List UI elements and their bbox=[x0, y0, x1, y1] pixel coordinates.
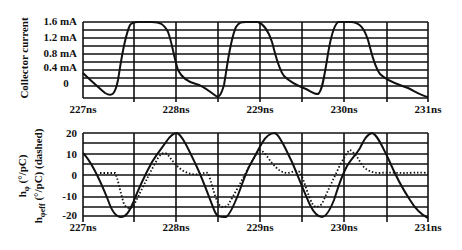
top-x-tick: 231ns bbox=[415, 103, 443, 115]
top-x-tick: 229ns bbox=[247, 103, 275, 115]
bottom-x-tick: 230ns bbox=[331, 221, 359, 233]
bottom-y-tick: 10 bbox=[66, 148, 78, 160]
bottom-x-tick: 228ns bbox=[163, 221, 191, 233]
top-y-tick: 0.4 mA bbox=[43, 61, 77, 73]
top-y-tick: 0 bbox=[63, 77, 69, 89]
top-chart: Collector current 1.6 mA 1.2 mA 0.8 mA 0… bbox=[18, 15, 442, 115]
bottom-x-tick: 227ns bbox=[70, 221, 98, 233]
bottom-grid bbox=[83, 133, 428, 222]
top-grid bbox=[83, 22, 428, 102]
bottom-x-tick: 231ns bbox=[415, 221, 443, 233]
top-x-tick: 230ns bbox=[331, 103, 359, 115]
bottom-y-tick: 0 bbox=[72, 169, 78, 181]
top-x-tick: 227ns bbox=[70, 103, 98, 115]
top-y-tick: 1.2 mA bbox=[43, 31, 77, 43]
figure: Collector current 1.6 mA 1.2 mA 0.8 mA 0… bbox=[0, 0, 462, 250]
top-y-tick: 0.8 mA bbox=[43, 47, 77, 59]
bottom-y-tick: -20 bbox=[62, 209, 77, 221]
top-y-tick: 1.6 mA bbox=[43, 15, 77, 27]
top-x-tick: 228ns bbox=[163, 103, 191, 115]
bottom-chart: hφ (°/pC) hφeff (°/pC) (dashed) 20 10 0 … bbox=[16, 127, 442, 233]
h-phi-eff-trace bbox=[100, 150, 428, 208]
bottom-y-tick: -10 bbox=[62, 190, 77, 202]
top-y-axis-label: Collector current bbox=[18, 17, 30, 98]
bottom-y-tick: 20 bbox=[66, 127, 78, 139]
bottom-x-tick: 229ns bbox=[247, 221, 275, 233]
bottom-y-axis-label-hphieff: hφeff (°/pC) (dashed) bbox=[32, 128, 47, 223]
bottom-y-axis-label-hphi: hφ (°/pC) bbox=[16, 154, 31, 197]
